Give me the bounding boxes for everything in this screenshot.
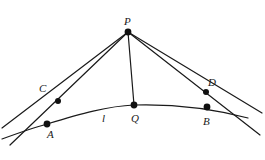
vertex-dots-group <box>44 29 211 128</box>
label-C: C <box>39 83 46 94</box>
curve-l <box>2 105 248 139</box>
line-P-B-extended <box>128 32 262 113</box>
curve-l-group <box>2 105 248 139</box>
point-B <box>204 104 211 111</box>
label-l: l <box>102 113 105 124</box>
geometry-figure: PCDABQl <box>0 0 265 160</box>
point-A <box>44 121 51 128</box>
line-P-A-extended <box>2 32 128 128</box>
label-P: P <box>124 16 131 27</box>
point-C <box>55 98 61 104</box>
label-A: A <box>47 129 54 140</box>
line-P-Q <box>128 32 134 105</box>
point-Q <box>131 102 138 109</box>
figure-canvas <box>0 0 265 160</box>
label-B: B <box>203 116 210 127</box>
label-Q: Q <box>131 113 139 124</box>
label-D: D <box>208 77 216 88</box>
point-P <box>125 29 132 36</box>
line-P-D-extended <box>128 32 260 135</box>
line-P-C-extended <box>10 32 128 145</box>
point-D <box>203 89 209 95</box>
